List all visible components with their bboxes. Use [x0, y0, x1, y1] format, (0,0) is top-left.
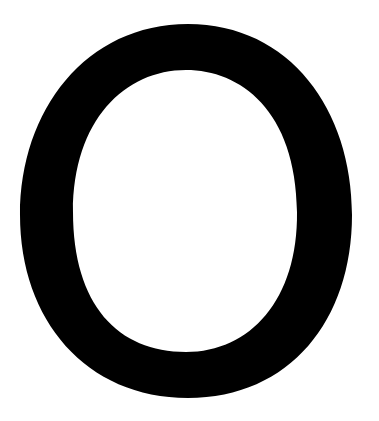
- letter-o-glyph: [0, 0, 379, 421]
